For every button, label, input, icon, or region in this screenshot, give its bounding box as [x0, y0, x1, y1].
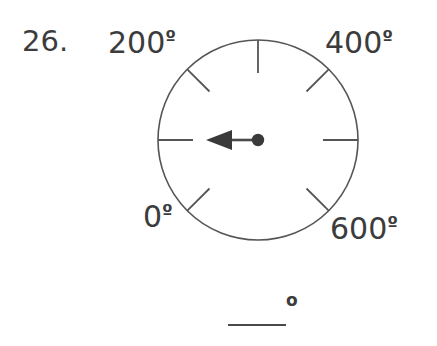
degree-symbol-icon: º	[162, 200, 173, 222]
degree-symbol-icon: º	[387, 212, 398, 234]
gauge-tick-upper-left	[187, 69, 209, 91]
gauge-diagram: 200º 400º 0º 600º	[0, 0, 437, 346]
dial-label-600: 600º	[330, 214, 398, 244]
gauge-tick-lower-left	[187, 189, 209, 211]
answer-blank-line[interactable]	[228, 324, 286, 326]
gauge-tick-lower-right	[307, 189, 329, 211]
gauge-needle-hub	[252, 134, 264, 146]
degree-symbol-icon: º	[165, 26, 176, 48]
dial-label-0: 0º	[143, 202, 173, 232]
dial-label-0-value: 0	[143, 199, 162, 234]
worksheet-problem: 26. 200º	[0, 0, 437, 346]
answer-unit-label: o	[286, 292, 298, 309]
gauge-needle-arrowhead	[206, 130, 232, 150]
gauge-tick-upper-right	[307, 69, 329, 91]
dial-label-600-value: 600	[330, 211, 387, 246]
dial-label-200-value: 200	[108, 25, 165, 60]
dial-label-200: 200º	[108, 28, 176, 58]
dial-label-400-value: 400	[325, 25, 382, 60]
answer-area: o	[226, 288, 346, 336]
dial-label-400: 400º	[325, 28, 393, 58]
degree-symbol-icon: º	[382, 26, 393, 48]
